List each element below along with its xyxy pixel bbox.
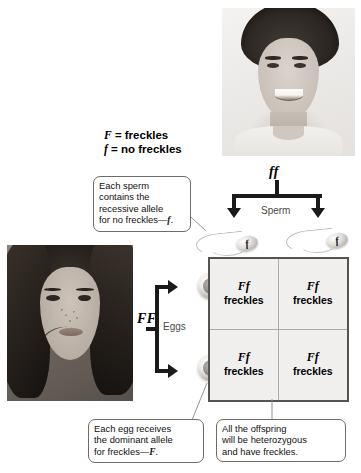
callout-egg: Each egg receives the dominant allele fo… (88, 419, 204, 463)
callout-sperm: Each sperm contains the recessive allele… (93, 176, 191, 232)
callout-offspring-line3: and have freckles. (222, 446, 340, 457)
callout-egg-line3-suffix: . (156, 446, 159, 457)
callout-leader-lines (0, 0, 361, 473)
callout-sperm-line4-suffix: . (170, 214, 173, 225)
callout-egg-line2: the dominant allele (94, 434, 198, 445)
callout-sperm-line1: Each sperm (99, 180, 185, 191)
callout-sperm-line4-prefix: for no freckles— (99, 214, 167, 225)
callout-sperm-line2: contains the (99, 191, 185, 202)
callout-sperm-line4: for no freckles—f. (99, 214, 185, 226)
callout-offspring: All the offspring will be heterozygous a… (216, 419, 346, 462)
callout-offspring-line1: All the offspring (222, 423, 340, 434)
leader-line-egg (192, 383, 207, 420)
callout-egg-line3: for freckles—F. (94, 446, 198, 458)
callout-egg-line1: Each egg receives (94, 423, 198, 434)
callout-offspring-line2: will be heterozygous (222, 434, 340, 445)
diagram-canvas: F = freckles f = no freckles ff FF Sperm… (0, 0, 361, 473)
callout-egg-line3-prefix: for freckles— (94, 446, 149, 457)
callout-sperm-line3: recessive allele (99, 203, 185, 214)
